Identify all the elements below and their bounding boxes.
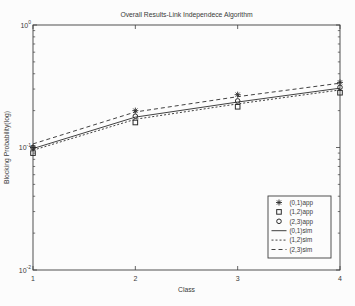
x-tick-label: 1 xyxy=(31,275,35,282)
series-(1,2)app xyxy=(31,90,343,155)
figure: 123410010-110-2Overall Results-Link Inde… xyxy=(0,0,355,306)
legend-label: (1,2)app xyxy=(290,208,314,216)
legend-label: (0,1)app xyxy=(290,199,314,207)
x-tick-label: 3 xyxy=(236,275,240,282)
chart-title: Overall Results-Link Independece Algorit… xyxy=(120,11,253,19)
series-(0,1)sim xyxy=(33,88,340,148)
legend-label: (0,1)sim xyxy=(290,227,313,235)
series-(0,1)app xyxy=(30,79,343,150)
legend: (0,1)app(1,2)app(2,3)app(0,1)sim(1,2)sim… xyxy=(268,196,331,258)
series-(2,3)app xyxy=(31,85,343,150)
legend-label: (2,3)app xyxy=(290,218,314,226)
x-axis-label: Class xyxy=(178,286,196,293)
x-tick-label: 4 xyxy=(338,275,342,282)
x-tick-label: 2 xyxy=(133,275,137,282)
legend-label: (1,2)sim xyxy=(290,236,313,244)
series-(1,2)sim xyxy=(33,90,340,150)
y-axis-label: Blocking Probability(log) xyxy=(3,111,11,184)
chart-canvas: 123410010-110-2Overall Results-Link Inde… xyxy=(0,0,355,306)
legend-label: (2,3)sim xyxy=(290,246,313,254)
y-tick-label: 10-2 xyxy=(19,264,31,273)
y-tick-label: 100 xyxy=(20,19,31,28)
y-tick-label: 10-1 xyxy=(19,142,31,151)
